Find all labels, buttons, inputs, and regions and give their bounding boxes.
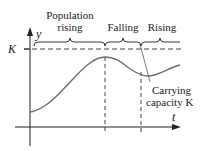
t-axis-label: t [172,110,176,124]
brace-rising [34,38,105,46]
y-axis [27,27,33,146]
t-axis [15,124,181,130]
logistic-diagram: y t K Population rising Falling Rising [0,0,203,151]
annotation-line1: Carrying [152,84,192,96]
brace-rising-2 [141,38,180,46]
y-axis-label: y [35,27,42,41]
phase-label-rising-line2: rising [57,21,83,33]
phase-label-rising-line1: Population [46,9,94,21]
annotation-line2: capacity K [146,96,193,108]
brace-falling [105,38,141,46]
t-axis-arrow-icon [172,124,181,130]
phase-label-rising-again: Rising [148,21,177,33]
k-label: K [7,42,17,56]
phase-label-falling: Falling [107,21,139,33]
y-axis-arrow-icon [27,27,33,36]
